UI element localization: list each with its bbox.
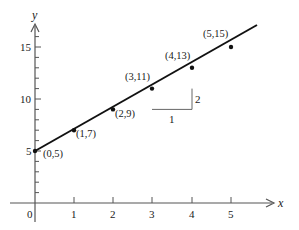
x-axis: x 0 1 2 3 4 5 <box>10 196 284 220</box>
point-label: (0,5) <box>43 148 64 160</box>
run-label: 1 <box>169 113 175 125</box>
y-axis: y 5 10 15 <box>20 8 41 222</box>
point-label: (5,15) <box>203 28 229 40</box>
data-points <box>33 45 233 153</box>
y-tick-label: 5 <box>26 145 32 157</box>
x-tick-label: 0 <box>27 208 33 220</box>
point-label: (4,13) <box>165 50 191 62</box>
x-tick-label: 4 <box>189 208 195 220</box>
point-label: (1,7) <box>76 128 97 140</box>
data-point <box>229 45 233 49</box>
rise-label: 2 <box>195 93 201 105</box>
x-tick-label: 5 <box>228 208 234 220</box>
x-axis-label: x <box>277 196 284 210</box>
y-axis-label: y <box>31 8 38 22</box>
data-point <box>190 66 194 70</box>
x-tick-label: 1 <box>71 208 77 220</box>
y-tick-label: 15 <box>20 41 32 53</box>
data-point <box>33 149 37 153</box>
x-tick-label: 2 <box>110 208 116 220</box>
line-chart: x 0 1 2 3 4 5 y <box>0 0 299 230</box>
point-label: (3,11) <box>125 71 150 83</box>
data-point <box>150 86 154 90</box>
data-line <box>35 25 257 151</box>
slope-triangle: 1 2 <box>152 89 201 125</box>
y-ticks <box>35 37 41 193</box>
x-tick-label: 3 <box>149 208 155 220</box>
x-ticks <box>74 197 231 203</box>
y-tick-label: 10 <box>20 93 32 105</box>
point-label: (2,9) <box>115 108 136 120</box>
